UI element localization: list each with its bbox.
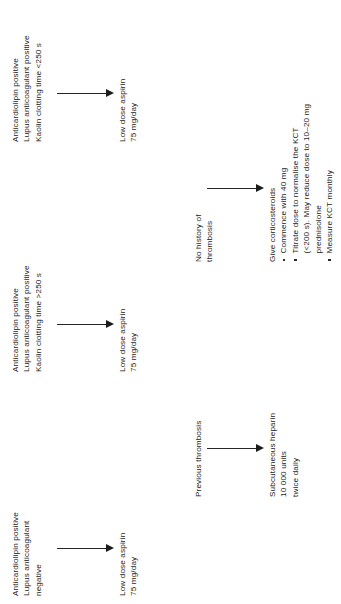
list-item-line: prednisolone bbox=[313, 104, 324, 254]
arrow-kct-lt250-to-aspirin bbox=[57, 89, 114, 98]
bullet-square-icon bbox=[328, 259, 331, 262]
list-item-line: Titrate dose to normalise the KCT bbox=[290, 104, 301, 254]
treatment-line: twice daily bbox=[290, 413, 301, 497]
arrow-no-history-to-corticosteroids bbox=[207, 184, 264, 193]
condition-line: Kaolin clotting time >250 s bbox=[33, 265, 44, 372]
branch-line: Previous thrombosis bbox=[193, 421, 204, 497]
condition-line: negative bbox=[33, 512, 44, 596]
list-item-line: (<200 s). May reduce dose to 10–20 mg bbox=[301, 104, 312, 254]
arrow-kct-gt250-to-aspirin bbox=[57, 320, 114, 329]
treatment-line: 10 000 units bbox=[278, 413, 289, 497]
treatment-line: 75 mg/day bbox=[128, 309, 139, 372]
condition-kct-less-250: Anticardiolipin positive Lupus anticoagu… bbox=[10, 35, 44, 142]
list-item-line: Measure KCT monthly bbox=[324, 104, 335, 254]
branch-line: thrombosis bbox=[204, 214, 215, 262]
arrow-head bbox=[106, 89, 114, 97]
condition-kct-greater-250: Anticardiolipin positive Lupus anticoagu… bbox=[10, 265, 44, 372]
condition-line: Anticardiolipin positive bbox=[10, 265, 21, 372]
treatment-line: Low dose aspirin bbox=[117, 309, 128, 372]
branch-no-history-thrombosis: No history of thrombosis bbox=[193, 214, 216, 262]
treatment-line: Subcutaneous heparin bbox=[267, 413, 278, 497]
bullet-square-icon bbox=[294, 259, 297, 262]
list-item: Titrate dose to normalise the KCT bbox=[290, 104, 301, 262]
list-item: Measure KCT monthly bbox=[324, 104, 335, 262]
arrow-shaft bbox=[57, 548, 106, 549]
treatment-aspirin-2: Low dose aspirin 75 mg/day bbox=[117, 309, 140, 372]
corticosteroid-bullet-list: Commence with 40 mg Titrate dose to norm… bbox=[278, 104, 335, 262]
arrow-acl-neg-to-aspirin bbox=[57, 544, 114, 553]
treatment-heading: Give corticosteroids bbox=[267, 104, 278, 262]
treatment-line: Low dose aspirin bbox=[117, 533, 128, 596]
condition-line: Kaolin clotting time <250 s bbox=[33, 35, 44, 142]
arrow-shaft bbox=[57, 324, 106, 325]
treatment-aspirin-1: Low dose aspirin 75 mg/day bbox=[117, 533, 140, 596]
treatment-line: 75 mg/day bbox=[128, 79, 139, 142]
condition-acl-positive-lac-negative: Anticardiolipin positive Lupus anticoagu… bbox=[10, 512, 44, 596]
condition-line: Anticardiolipin positive bbox=[10, 35, 21, 142]
arrow-shaft bbox=[207, 188, 256, 189]
arrow-prev-thrombosis-to-heparin bbox=[207, 444, 264, 453]
treatment-heparin: Subcutaneous heparin 10 000 units twice … bbox=[267, 413, 301, 497]
list-item-continuation: (<200 s). May reduce dose to 10–20 mg bbox=[301, 104, 312, 262]
treatment-line: Low dose aspirin bbox=[117, 79, 128, 142]
condition-line: Lupus anticoagulant positive bbox=[21, 35, 32, 142]
arrow-shaft bbox=[207, 448, 256, 449]
branch-line: No history of bbox=[193, 214, 204, 262]
bullet-square-icon bbox=[283, 259, 286, 262]
treatment-corticosteroids: Give corticosteroids Commence with 40 mg… bbox=[267, 104, 335, 262]
list-item-continuation: prednisolone bbox=[313, 104, 324, 262]
arrow-head bbox=[106, 544, 114, 552]
arrow-shaft bbox=[57, 93, 106, 94]
branch-previous-thrombosis: Previous thrombosis bbox=[193, 421, 204, 497]
treatment-aspirin-3: Low dose aspirin 75 mg/day bbox=[117, 79, 140, 142]
condition-line: Lupus anticoagulant bbox=[21, 512, 32, 596]
list-item-line: Commence with 40 mg bbox=[278, 104, 289, 254]
list-item: Commence with 40 mg bbox=[278, 104, 289, 262]
arrow-head bbox=[256, 184, 264, 192]
condition-line: Anticardiolipin positive bbox=[10, 512, 21, 596]
arrow-head bbox=[106, 320, 114, 328]
arrow-head bbox=[256, 444, 264, 452]
condition-line: Lupus anticoagulant positive bbox=[21, 265, 32, 372]
treatment-line: 75 mg/day bbox=[128, 533, 139, 596]
diagram-canvas: Anticardiolipin positive Lupus anticoagu… bbox=[0, 0, 341, 604]
